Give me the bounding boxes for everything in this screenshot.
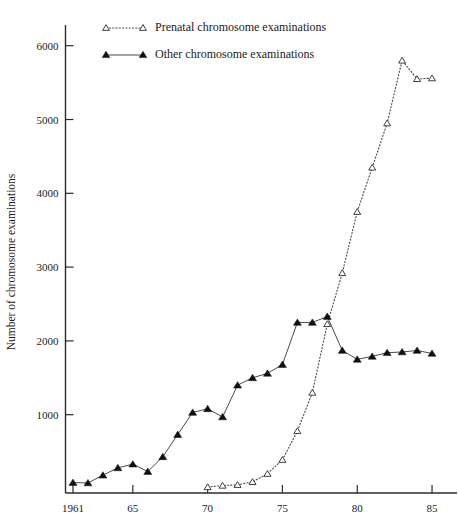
x-tick-label: 65 [127, 502, 139, 514]
x-axis-ticks: 19616570758085 [62, 485, 438, 514]
x-tick-label: 1961 [62, 502, 84, 514]
y-axis-title: Number of chromosome examinations [5, 173, 17, 350]
y-tick-label: 6000 [37, 40, 60, 52]
y-tick-label: 3000 [37, 261, 60, 273]
data-point-marker [354, 209, 361, 215]
data-point-marker [338, 347, 346, 353]
data-point-marker [339, 270, 346, 276]
data-point-marker [413, 347, 421, 353]
series-other [69, 313, 436, 486]
data-point-marker [309, 389, 316, 395]
data-point-marker [369, 164, 376, 170]
x-axis-group: 19616570758085 [62, 485, 457, 514]
legend-label-other: Other chromosome examinations [155, 47, 315, 61]
series-line [73, 317, 432, 483]
y-tick-label: 2000 [37, 335, 60, 347]
data-point-marker [279, 457, 286, 463]
chromosome-examinations-chart: 100020003000400050006000 Number of chrom… [0, 0, 458, 518]
x-tick-label: 85 [427, 502, 439, 514]
y-axis-group: 100020003000400050006000 Number of chrom… [5, 25, 74, 493]
legend-item-other: Other chromosome examinations [102, 47, 314, 61]
data-point-marker [263, 370, 271, 376]
data-point-marker [159, 453, 167, 459]
legend-marker-open-triangle-left [103, 25, 110, 31]
series-prenatal [204, 57, 435, 489]
series-line [208, 60, 432, 487]
data-point-marker [174, 431, 182, 437]
legend: Prenatal chromosome examinations Other c… [102, 20, 326, 61]
legend-item-prenatal: Prenatal chromosome examinations [103, 20, 327, 34]
x-tick-label: 75 [277, 502, 289, 514]
data-point-marker [204, 405, 212, 411]
data-point-marker [249, 479, 256, 485]
data-point-marker [234, 382, 242, 388]
data-point-marker [399, 57, 406, 63]
legend-marker-open-triangle-right [140, 25, 147, 31]
y-tick-label: 1000 [37, 409, 60, 421]
chart-canvas: 100020003000400050006000 Number of chrom… [0, 0, 458, 518]
y-axis-ticks: 100020003000400050006000 [37, 40, 74, 421]
data-point-marker [294, 428, 301, 434]
y-tick-label: 5000 [37, 114, 60, 126]
x-tick-label: 80 [352, 502, 364, 514]
data-point-marker [278, 361, 286, 367]
legend-label-prenatal: Prenatal chromosome examinations [155, 20, 327, 34]
legend-marker-filled-triangle-left [102, 51, 110, 57]
legend-marker-filled-triangle-right [139, 51, 147, 57]
data-point-marker [384, 120, 391, 126]
y-tick-label: 4000 [37, 187, 60, 199]
data-point-marker [99, 472, 107, 478]
data-point-marker [219, 413, 227, 419]
series-layer [69, 57, 436, 489]
x-tick-label: 70 [202, 502, 214, 514]
data-point-marker [204, 484, 211, 490]
data-point-marker [429, 75, 436, 81]
data-point-marker [129, 461, 137, 467]
